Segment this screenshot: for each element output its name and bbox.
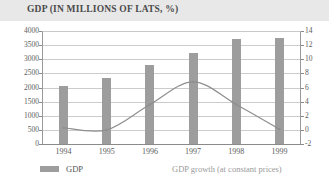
legend-swatch-icon — [40, 166, 59, 172]
right-tick-mark — [301, 59, 304, 60]
growth-line-path — [64, 82, 280, 131]
right-tick-mark — [301, 130, 304, 131]
right-tick-label: 6 — [305, 83, 309, 92]
chart-legend: GDP GDP growth (at constant prices) — [0, 163, 329, 179]
x-axis-labels: 199419951996199719981999 — [42, 147, 301, 159]
left-tick-label: 1000 — [24, 111, 39, 120]
left-tick-mark — [39, 59, 42, 60]
x-axis-label: 1999 — [259, 147, 299, 156]
right-tick-mark — [301, 31, 304, 32]
right-tick-label: -2 — [305, 139, 311, 148]
x-axis-label: 1998 — [216, 147, 256, 156]
growth-line-markers — [62, 81, 280, 131]
title-band: GDP (IN MILLIONS OF LATS, %) — [0, 0, 329, 21]
x-axis-label: 1996 — [130, 147, 170, 156]
right-tick-label: 12 — [305, 40, 313, 49]
right-tick-mark — [301, 73, 304, 74]
left-tick-label: 2000 — [24, 83, 39, 92]
right-tick-label: 2 — [305, 111, 309, 120]
x-axis-label: 1994 — [44, 147, 84, 156]
right-tick-label: 4 — [305, 97, 309, 106]
chart-title: GDP (IN MILLIONS OF LATS, %) — [27, 4, 178, 14]
left-axis: 05001000150020002500300035004000 — [6, 31, 39, 144]
right-tick-label: 14 — [305, 26, 313, 35]
growth-point — [235, 103, 237, 105]
legend-label-gdp-growth: GDP growth (at constant prices) — [172, 164, 282, 174]
left-tick-label: 4000 — [24, 26, 39, 35]
left-tick-mark — [39, 73, 42, 74]
right-tick-mark — [301, 88, 304, 89]
growth-point — [62, 127, 64, 129]
right-axis: -202468101214 — [305, 31, 327, 144]
right-tick-mark — [301, 102, 304, 103]
left-tick-label: 3500 — [24, 40, 39, 49]
growth-point — [106, 129, 108, 131]
legend-label-gdp: GDP — [66, 164, 83, 174]
left-tick-mark — [39, 144, 42, 145]
left-tick-mark — [39, 31, 42, 32]
right-tick-mark — [301, 45, 304, 46]
left-tick-mark — [39, 116, 42, 117]
left-tick-label: 1500 — [24, 97, 39, 106]
legend-item-gdp: GDP — [40, 164, 83, 174]
right-tick-label: 0 — [305, 125, 309, 134]
right-tick-label: 10 — [305, 54, 313, 63]
left-tick-label: 3000 — [24, 54, 39, 63]
x-axis-label: 1995 — [87, 147, 127, 156]
left-tick-mark — [39, 102, 42, 103]
growth-point — [278, 128, 280, 130]
growth-point — [192, 81, 194, 83]
left-tick-mark — [39, 130, 42, 131]
x-axis-label: 1997 — [173, 147, 213, 156]
right-tick-mark — [301, 144, 304, 145]
left-tick-label: 500 — [28, 125, 39, 134]
right-tick-label: 8 — [305, 68, 309, 77]
x-axis-line — [42, 144, 301, 145]
chart-figure: GDP (IN MILLIONS OF LATS, %) 05001000150… — [0, 0, 329, 189]
left-tick-mark — [39, 88, 42, 89]
right-tick-mark — [301, 116, 304, 117]
growth-point — [149, 103, 151, 105]
left-tick-label: 2500 — [24, 68, 39, 77]
growth-line-layer — [42, 31, 301, 144]
left-tick-mark — [39, 45, 42, 46]
